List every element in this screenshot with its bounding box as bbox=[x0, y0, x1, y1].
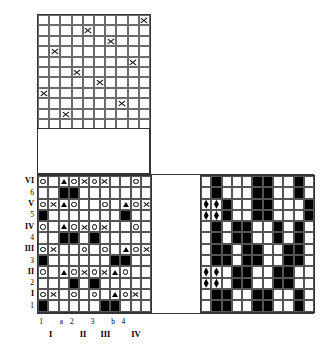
treadling-cell[interactable] bbox=[79, 232, 89, 243]
treadling-cell[interactable] bbox=[48, 278, 58, 289]
threading-cell[interactable] bbox=[128, 98, 139, 108]
threading-cell[interactable] bbox=[139, 25, 150, 35]
threading-mark-cell[interactable] bbox=[38, 88, 49, 98]
treadling-circle-cell[interactable] bbox=[131, 221, 141, 232]
threading-cell[interactable] bbox=[94, 46, 105, 56]
threading-cell[interactable] bbox=[94, 88, 105, 98]
threading-cell[interactable] bbox=[139, 77, 150, 87]
threading-cell[interactable] bbox=[83, 36, 94, 46]
treadling-triangle-cell[interactable] bbox=[110, 289, 120, 300]
threading-cell[interactable] bbox=[94, 67, 105, 77]
treadling-cell[interactable] bbox=[141, 278, 151, 289]
treadling-circle-cell[interactable] bbox=[38, 221, 48, 232]
treadling-triangle-cell[interactable] bbox=[59, 199, 69, 210]
treadling-circle-cell[interactable] bbox=[69, 176, 79, 187]
treadling-cell[interactable] bbox=[38, 187, 48, 198]
threading-cell[interactable] bbox=[139, 88, 150, 98]
treadling-cell[interactable] bbox=[48, 176, 58, 187]
treadling-triangle-cell[interactable] bbox=[59, 176, 69, 187]
treadling-circle-cell[interactable] bbox=[120, 289, 130, 300]
treadling-filled-cell[interactable] bbox=[110, 300, 120, 311]
threading-mark-cell[interactable] bbox=[60, 109, 71, 119]
threading-cell[interactable] bbox=[83, 46, 94, 56]
treadling-filled-cell[interactable] bbox=[89, 278, 99, 289]
treadling-cross-cell[interactable] bbox=[48, 244, 58, 255]
treadling-circle-cell[interactable] bbox=[69, 199, 79, 210]
treadling-cell[interactable] bbox=[38, 232, 48, 243]
treadling-cell[interactable] bbox=[48, 266, 58, 277]
treadling-cross-cell[interactable] bbox=[100, 176, 110, 187]
treadling-cell[interactable] bbox=[79, 300, 89, 311]
threading-cell[interactable] bbox=[83, 77, 94, 87]
threading-cell[interactable] bbox=[60, 77, 71, 87]
treadling-cell[interactable] bbox=[110, 187, 120, 198]
threading-mark-cell[interactable] bbox=[83, 25, 94, 35]
threading-cell[interactable] bbox=[105, 67, 116, 77]
treadling-cell[interactable] bbox=[59, 255, 69, 266]
threading-cell[interactable] bbox=[72, 15, 83, 25]
treadling-cell[interactable] bbox=[89, 210, 99, 221]
threading-cell[interactable] bbox=[38, 15, 49, 25]
threading-cell[interactable] bbox=[38, 46, 49, 56]
threading-cell[interactable] bbox=[105, 15, 116, 25]
treadling-filled-cell[interactable] bbox=[59, 232, 69, 243]
treadling-cell[interactable] bbox=[79, 187, 89, 198]
threading-cell[interactable] bbox=[128, 46, 139, 56]
treadling-filled-cell[interactable] bbox=[38, 300, 48, 311]
treadling-circle-cell[interactable] bbox=[38, 199, 48, 210]
threading-cell[interactable] bbox=[72, 88, 83, 98]
treadling-cell[interactable] bbox=[48, 232, 58, 243]
threading-cell[interactable] bbox=[83, 67, 94, 77]
threading-cell[interactable] bbox=[116, 36, 127, 46]
treadling-cell[interactable] bbox=[141, 221, 151, 232]
treadling-filled-cell[interactable] bbox=[69, 278, 79, 289]
treadling-filled-cell[interactable] bbox=[120, 255, 130, 266]
treadling-cell[interactable] bbox=[120, 176, 130, 187]
threading-cell[interactable] bbox=[105, 88, 116, 98]
treadling-cell[interactable] bbox=[120, 300, 130, 311]
treadling-cell[interactable] bbox=[69, 255, 79, 266]
threading-cell[interactable] bbox=[128, 77, 139, 87]
treadling-cell[interactable] bbox=[120, 221, 130, 232]
treadling-cell[interactable] bbox=[141, 176, 151, 187]
treadling-cell[interactable] bbox=[59, 244, 69, 255]
treadling-cell[interactable] bbox=[48, 300, 58, 311]
threading-mark-cell[interactable] bbox=[49, 46, 60, 56]
treadling-cell[interactable] bbox=[131, 300, 141, 311]
treadling-circle-cell[interactable] bbox=[69, 221, 79, 232]
threading-cell[interactable] bbox=[72, 77, 83, 87]
threading-cell[interactable] bbox=[139, 46, 150, 56]
treadling-cell[interactable] bbox=[141, 266, 151, 277]
treadling-cell[interactable] bbox=[38, 278, 48, 289]
threading-cell[interactable] bbox=[116, 109, 127, 119]
threading-cell[interactable] bbox=[72, 98, 83, 108]
treadling-cell[interactable] bbox=[79, 210, 89, 221]
threading-cell[interactable] bbox=[83, 15, 94, 25]
treadling-circle-cell[interactable] bbox=[89, 289, 99, 300]
threading-cell[interactable] bbox=[94, 36, 105, 46]
treadling-cell[interactable] bbox=[89, 187, 99, 198]
treadling-cross-cell[interactable] bbox=[79, 266, 89, 277]
threading-cell[interactable] bbox=[139, 67, 150, 77]
threading-cell[interactable] bbox=[105, 109, 116, 119]
treadling-cell[interactable] bbox=[131, 266, 141, 277]
treadling-cell[interactable] bbox=[120, 232, 130, 243]
threading-cell[interactable] bbox=[49, 57, 60, 67]
treadling-cell[interactable] bbox=[141, 187, 151, 198]
treadling-triangle-cell[interactable] bbox=[59, 221, 69, 232]
treadling-filled-cell[interactable] bbox=[38, 210, 48, 221]
threading-cell[interactable] bbox=[83, 98, 94, 108]
threading-mark-cell[interactable] bbox=[72, 67, 83, 77]
threading-cell[interactable] bbox=[49, 36, 60, 46]
threading-cell[interactable] bbox=[139, 109, 150, 119]
treadling-filled-cell[interactable] bbox=[100, 300, 110, 311]
threading-cell[interactable] bbox=[105, 46, 116, 56]
threading-cell[interactable] bbox=[60, 67, 71, 77]
treadling-cell[interactable] bbox=[59, 300, 69, 311]
threading-cell[interactable] bbox=[49, 98, 60, 108]
treadling-cell[interactable] bbox=[100, 278, 110, 289]
threading-cell[interactable] bbox=[60, 25, 71, 35]
treadling-circle-cell[interactable] bbox=[79, 244, 89, 255]
treadling-cell[interactable] bbox=[131, 232, 141, 243]
treadling-cell[interactable] bbox=[69, 244, 79, 255]
